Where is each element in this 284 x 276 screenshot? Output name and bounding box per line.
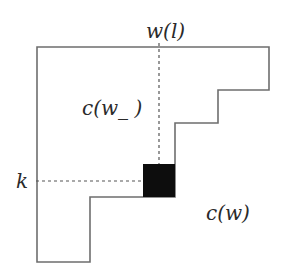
label-outer: c(w): [206, 201, 250, 225]
label-top: w(l): [146, 19, 185, 43]
label-inner: c(w_ ): [82, 96, 142, 120]
label-left: k: [16, 169, 28, 193]
young-diagram: w(l) c(w_ ) k c(w): [0, 0, 284, 276]
diagram-outline: [37, 47, 269, 262]
highlighted-cell: [143, 164, 175, 197]
